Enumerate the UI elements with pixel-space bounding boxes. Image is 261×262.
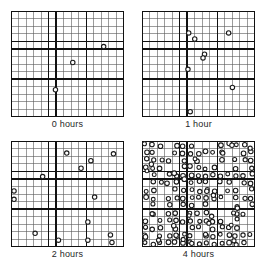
- data-point-marker: [197, 166, 201, 170]
- data-point-marker: [188, 219, 192, 223]
- data-point-marker: [203, 202, 208, 207]
- data-point-marker: [211, 173, 215, 177]
- data-point-marker: [227, 233, 232, 238]
- data-point-marker: [189, 181, 193, 185]
- data-point-marker: [158, 144, 163, 149]
- data-point-marker: [233, 195, 237, 199]
- data-point-marker: [166, 197, 170, 201]
- data-point-marker: [151, 202, 155, 206]
- data-point-marker: [197, 242, 201, 246]
- panel-1hour: [142, 11, 255, 117]
- data-point-marker: [151, 179, 155, 183]
- data-point-marker: [181, 202, 185, 206]
- data-point-marker: [248, 181, 253, 186]
- data-point-marker: [12, 189, 16, 193]
- data-point-marker: [203, 232, 207, 236]
- data-point-marker: [193, 157, 197, 161]
- data-point-marker: [233, 158, 237, 162]
- data-point-marker: [143, 241, 147, 245]
- data-point-marker: [33, 231, 37, 235]
- data-point-marker: [209, 214, 213, 218]
- data-point-marker: [197, 225, 201, 229]
- panel-caption-2hours: 2 hours: [11, 249, 124, 259]
- data-point-marker: [190, 241, 194, 245]
- data-point-marker: [175, 143, 180, 148]
- data-point-marker: [166, 240, 171, 245]
- data-point-marker: [149, 162, 153, 166]
- data-point-marker: [204, 210, 209, 215]
- data-point-marker: [241, 212, 245, 216]
- data-point-marker: [218, 219, 223, 224]
- data-point-marker: [158, 225, 163, 230]
- data-point-marker: [182, 164, 187, 169]
- data-point-marker: [242, 240, 246, 244]
- data-point-marker: [226, 189, 230, 193]
- data-point-marker: [248, 196, 252, 200]
- data-point-marker: [203, 174, 207, 178]
- data-point-marker: [180, 151, 185, 156]
- data-point-marker: [211, 150, 215, 154]
- data-point-marker: [243, 196, 247, 200]
- data-point-marker: [220, 158, 225, 163]
- panel-caption-1hour: 1 hour: [142, 119, 255, 129]
- data-point-marker: [187, 214, 191, 218]
- data-point-marker: [181, 237, 185, 241]
- data-point-marker: [92, 195, 96, 199]
- data-point-marker: [229, 223, 233, 227]
- data-point-marker: [172, 240, 177, 245]
- figure-panel-grid: 0 hours 1 hour 2 hours 4 hours: [0, 0, 261, 262]
- data-point-marker: [158, 219, 162, 223]
- data-point-marker: [241, 151, 246, 156]
- data-point-marker: [210, 227, 215, 232]
- data-point-marker: [232, 211, 236, 215]
- data-point-marker: [250, 202, 255, 207]
- data-point-marker: [173, 187, 177, 191]
- data-point-marker: [248, 146, 252, 150]
- data-point-marker: [150, 142, 155, 147]
- panel-caption-0hours: 0 hours: [11, 119, 124, 129]
- data-point-marker: [71, 60, 75, 64]
- data-point-marker: [174, 233, 178, 237]
- data-point-marker: [211, 193, 215, 197]
- data-point-marker: [189, 144, 193, 148]
- data-point-marker: [174, 218, 179, 223]
- grid-svg-1hour: [142, 11, 255, 117]
- data-point-marker: [145, 169, 149, 173]
- data-point-marker: [217, 179, 222, 184]
- data-point-marker: [101, 44, 105, 48]
- data-point-marker: [243, 158, 247, 162]
- data-point-marker: [182, 177, 187, 182]
- data-point-marker: [144, 195, 149, 200]
- data-point-marker: [250, 171, 255, 176]
- data-point-marker: [188, 152, 192, 156]
- data-point-marker: [111, 152, 115, 156]
- panel-0hours: [11, 11, 124, 117]
- data-point-marker: [235, 217, 239, 221]
- data-point-marker: [207, 221, 211, 225]
- data-point-marker: [249, 187, 253, 191]
- data-point-marker: [243, 143, 247, 147]
- data-point-marker: [86, 238, 90, 242]
- data-point-marker: [232, 239, 236, 243]
- data-point-marker: [227, 180, 231, 184]
- data-point-marker: [150, 212, 154, 216]
- data-point-marker: [242, 181, 246, 185]
- data-point-marker: [142, 142, 146, 146]
- data-point-marker: [160, 158, 164, 162]
- data-point-marker: [241, 174, 246, 179]
- data-point-marker: [180, 220, 184, 224]
- data-point-marker: [230, 85, 234, 89]
- data-point-marker: [89, 158, 93, 162]
- data-point-marker: [167, 172, 171, 176]
- data-point-marker: [186, 67, 190, 71]
- data-point-marker: [212, 165, 217, 170]
- data-point-marker: [152, 188, 157, 193]
- data-point-marker: [248, 233, 252, 237]
- data-point-marker: [173, 151, 177, 155]
- data-point-marker: [190, 188, 194, 192]
- panel-caption-4hours: 4 hours: [142, 249, 255, 259]
- data-point-marker: [226, 31, 230, 35]
- data-point-marker: [143, 219, 148, 224]
- data-point-marker: [145, 150, 150, 155]
- data-point-marker: [218, 232, 222, 236]
